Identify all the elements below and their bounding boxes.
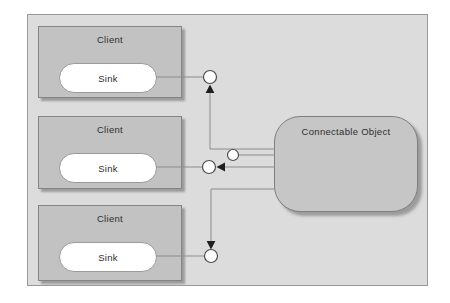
sink-label-3: Sink (98, 252, 118, 263)
connectable-object-label: Connectable Object (275, 126, 417, 137)
client-label-1: Client (39, 34, 181, 45)
sink-pill-2: Sink (59, 153, 157, 183)
interface-circle-middle (203, 161, 216, 174)
arrowhead-down-icon (207, 241, 216, 250)
client-label-3: Client (39, 213, 181, 224)
client-label-2: Client (39, 124, 181, 135)
arrowhead-up-icon (206, 85, 215, 94)
client-box-3: Client Sink (38, 205, 182, 281)
interface-circle-top (204, 71, 217, 84)
sink-label-1: Sink (98, 73, 118, 84)
sink-label-2: Sink (98, 163, 118, 174)
object-interface (228, 150, 276, 161)
interface-circle-bottom (205, 250, 218, 263)
client-box-1: Client Sink (38, 26, 182, 98)
sink-pill-3: Sink (59, 242, 157, 272)
client-box-2: Client Sink (38, 116, 182, 189)
sink-pill-1: Sink (59, 63, 157, 93)
interface-circle-object (228, 150, 239, 161)
arrowhead-left-icon (217, 163, 226, 172)
diagram-frame: Client Sink Client Sink Client Sink Conn… (27, 14, 428, 286)
connectable-object-box: Connectable Object (274, 116, 418, 212)
